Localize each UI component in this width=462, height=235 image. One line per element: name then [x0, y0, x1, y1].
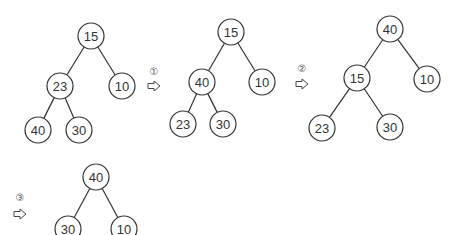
- tree-node: 40: [25, 117, 51, 143]
- tree-edge: [238, 43, 255, 71]
- tree-node: 23: [170, 111, 196, 137]
- tree-node: 40: [377, 16, 403, 42]
- tree-edge: [209, 43, 225, 71]
- tree-after-step-2: 4015102330: [309, 16, 440, 141]
- tree-node: 23: [47, 73, 73, 99]
- node-label: 10: [115, 79, 129, 94]
- step-number-marker: ①: [150, 66, 159, 77]
- node-label: 10: [117, 222, 131, 235]
- node-label: 40: [89, 170, 103, 185]
- tree-edge: [398, 39, 420, 68]
- tree-node: 10: [109, 73, 135, 99]
- tree-node: 30: [210, 111, 236, 137]
- node-label: 30: [61, 222, 75, 235]
- node-label: 15: [84, 29, 98, 44]
- node-label: 15: [350, 71, 364, 86]
- right-arrow-icon: [14, 209, 26, 219]
- node-label: 15: [224, 25, 238, 40]
- tree-node: 10: [249, 69, 275, 95]
- node-label: 23: [176, 117, 190, 132]
- tree-edge: [188, 94, 196, 112]
- right-arrow-icon: [296, 79, 308, 89]
- tree-node: 30: [55, 216, 81, 235]
- tree-node: 30: [66, 117, 92, 143]
- tree-after-step-3: 403010: [55, 164, 137, 235]
- tree-edge: [65, 98, 74, 118]
- tree-node: 15: [78, 23, 104, 49]
- node-label: 40: [383, 22, 397, 37]
- tree-edge: [364, 40, 382, 67]
- node-label: 30: [216, 117, 230, 132]
- tree-after-step-1: 1540102330: [170, 19, 275, 137]
- heap-diagram: 152310403015401023304015102330403010①②③: [0, 0, 462, 235]
- tree-edge: [329, 89, 349, 118]
- node-label: 23: [53, 79, 67, 94]
- tree-node: 30: [377, 114, 403, 140]
- tree-node: 40: [83, 164, 109, 190]
- tree-node: 10: [111, 216, 137, 235]
- tree-node: 15: [218, 19, 244, 45]
- tree-edge: [208, 94, 217, 113]
- node-label: 10: [420, 72, 434, 87]
- step-number-marker: ②: [298, 63, 307, 74]
- node-label: 30: [383, 120, 397, 135]
- right-arrow-icon: [148, 81, 160, 91]
- tree-edge: [44, 98, 54, 119]
- tree-edge: [67, 47, 84, 75]
- tree-node: 23: [309, 115, 335, 141]
- tree-edge: [98, 47, 115, 75]
- tree-edge: [74, 188, 90, 217]
- node-label: 40: [195, 75, 209, 90]
- node-label: 30: [72, 123, 86, 138]
- tree-node: 15: [344, 65, 370, 91]
- step-number-marker: ③: [16, 192, 25, 203]
- tree-edge: [102, 188, 118, 217]
- node-label: 23: [315, 121, 329, 136]
- tree-edge: [364, 89, 382, 116]
- node-label: 40: [31, 123, 45, 138]
- node-label: 10: [255, 75, 269, 90]
- tree-node: 40: [189, 69, 215, 95]
- tree-node: 10: [414, 66, 440, 92]
- tree-initial: 1523104030: [25, 23, 135, 143]
